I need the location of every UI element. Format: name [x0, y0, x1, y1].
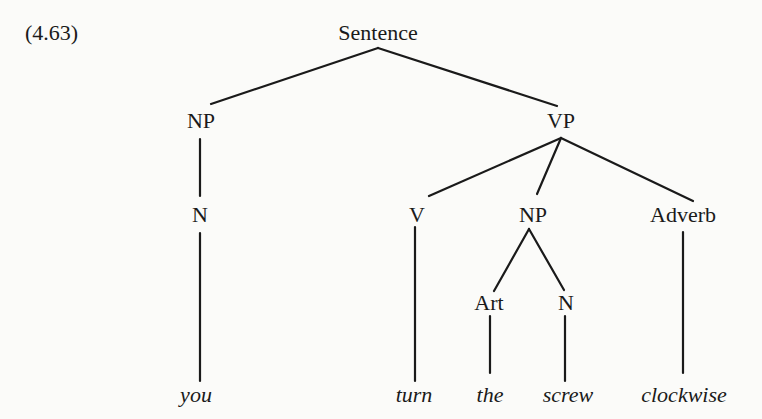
syntax-tree-figure: (4.63) Sentence NP VP N V NP Adverb Art …: [0, 0, 762, 419]
node-np-object: NP: [519, 204, 547, 226]
node-sentence: Sentence: [338, 22, 417, 44]
node-vp: VP: [547, 110, 575, 132]
edge-np-n2: [529, 229, 564, 290]
node-adverb: Adverb: [650, 204, 716, 226]
node-art: Art: [474, 292, 503, 314]
node-v: V: [409, 204, 425, 226]
word-screw: screw: [543, 384, 594, 406]
word-you: you: [180, 384, 212, 406]
node-n-subject: N: [192, 204, 208, 226]
edge-vp-adverb: [561, 138, 693, 201]
edge-np-art: [494, 229, 529, 291]
tree-edges: [0, 0, 762, 419]
node-n-object: N: [558, 292, 574, 314]
edge-sentence-np: [211, 48, 378, 104]
edge-sentence-vp: [378, 48, 557, 106]
word-clockwise: clockwise: [641, 384, 727, 406]
word-the: the: [477, 384, 504, 406]
node-np-subject: NP: [187, 110, 215, 132]
word-turn: turn: [396, 384, 433, 406]
edge-vp-v: [429, 138, 561, 196]
